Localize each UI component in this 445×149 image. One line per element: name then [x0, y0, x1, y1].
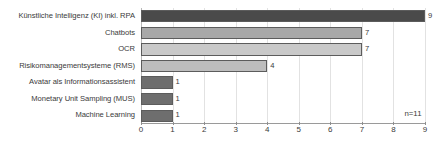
bar-row: 1 [141, 107, 445, 124]
x-tick-label: 4 [265, 125, 269, 134]
category-label: OCR [118, 41, 135, 58]
bar-row: 4 [141, 58, 445, 75]
category-label: Risikomanagementsysteme (RMS) [19, 58, 135, 75]
sample-size-annotation: n=11 [404, 109, 421, 118]
category-label: Künstliche Intelligenz (KI) inkl. RPA [18, 8, 135, 25]
x-tick-label: 1 [170, 125, 174, 134]
bar [141, 43, 362, 55]
bar [141, 110, 173, 122]
x-tick-label: 6 [328, 125, 332, 134]
bar [141, 10, 425, 22]
category-label: Machine Learning [75, 107, 135, 124]
category-axis-labels: Künstliche Intelligenz (KI) inkl. RPACha… [0, 8, 138, 124]
x-tick-label: 8 [391, 125, 395, 134]
bar-value-label: 9 [428, 8, 432, 25]
x-tick-label: 7 [360, 125, 364, 134]
bar-value-label: 7 [365, 41, 369, 58]
x-tick-label: 5 [297, 125, 301, 134]
bar [141, 27, 362, 39]
bar-row: 1 [141, 91, 445, 108]
bar [141, 60, 267, 72]
bar [141, 93, 173, 105]
bar-chart: Künstliche Intelligenz (KI) inkl. RPACha… [0, 0, 445, 149]
bar-value-label: 4 [270, 58, 274, 75]
bar-value-label: 1 [176, 91, 180, 108]
bar-row: 1 [141, 74, 445, 91]
x-tick-label: 2 [202, 125, 206, 134]
plot-area: 9774111 n=11 [141, 8, 425, 124]
bar-row: 7 [141, 41, 445, 58]
bar-value-label: 7 [365, 25, 369, 42]
bar-value-label: 1 [176, 107, 180, 124]
bar-row: 9 [141, 8, 445, 25]
bar-row: 7 [141, 25, 445, 42]
bar-value-label: 1 [176, 74, 180, 91]
x-tick-label: 0 [139, 125, 143, 134]
bar [141, 76, 173, 88]
category-label: Monetary Unit Sampling (MUS) [31, 91, 135, 108]
x-tick-label: 9 [423, 125, 427, 134]
x-axis: 0123456789 [141, 125, 425, 139]
x-tick-label: 3 [233, 125, 237, 134]
category-label: Avatar als Informationsassistent [29, 74, 135, 91]
category-label: Chatbots [105, 25, 135, 42]
